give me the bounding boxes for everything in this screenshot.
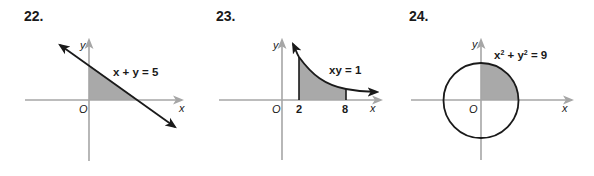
y-axis-label: y: [471, 38, 479, 50]
equation-label: xy = 1: [329, 64, 362, 76]
graph-22: y x O x + y = 5: [25, 39, 185, 161]
x-axis-label: x: [369, 102, 376, 114]
origin-label: O: [79, 103, 88, 115]
origin-label: O: [272, 103, 281, 115]
x-axis-label: x: [178, 102, 185, 114]
origin-label: O: [469, 103, 478, 115]
equation-label: x + y = 5: [113, 66, 159, 78]
x-axis-label: x: [561, 102, 568, 114]
y-axis-label: y: [79, 39, 87, 51]
tick-label-8: 8: [342, 103, 348, 115]
diagrams-svg: y x O x + y = 5 y x O 2 8 xy = 1: [0, 0, 594, 176]
y-axis-label: y: [272, 39, 280, 51]
graph-24: y x O x2 + y2 = 9: [411, 38, 572, 160]
graph-23: y x O 2 8 xy = 1: [219, 39, 381, 160]
figure-panel: 22. 23. 24. y x O x + y = 5: [0, 0, 594, 176]
tick-label-2: 2: [296, 103, 302, 115]
line-x-plus-y-5: [60, 45, 175, 127]
equation-label: x2 + y2 = 9: [494, 49, 547, 61]
